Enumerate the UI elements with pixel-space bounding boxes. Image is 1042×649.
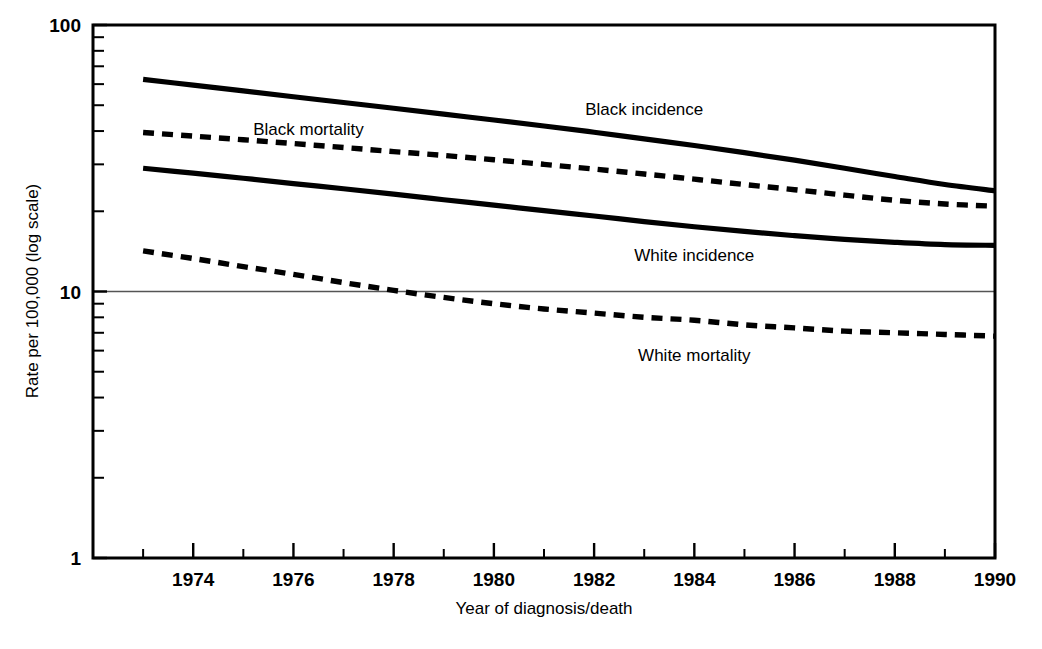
series-label-black-incidence: Black incidence (585, 100, 703, 119)
x-tick-label-1982: 1982 (573, 569, 615, 590)
x-tick-label-1984: 1984 (673, 569, 716, 590)
y-tick-label-10: 10 (60, 282, 81, 303)
chart-figure: 110100 197419761978198019821984198619881… (0, 0, 1042, 649)
x-tick-label-1976: 1976 (272, 569, 314, 590)
chart-background (0, 0, 1042, 649)
x-tick-label-1990: 1990 (974, 569, 1016, 590)
x-tick-label-1980: 1980 (473, 569, 515, 590)
y-tick-label-1: 1 (70, 548, 81, 569)
x-axis-tick-labels: 197419761978198019821984198619881990 (172, 569, 1016, 590)
x-tick-label-1978: 1978 (373, 569, 415, 590)
line-chart: 110100 197419761978198019821984198619881… (0, 0, 1042, 649)
x-tick-label-1988: 1988 (874, 569, 916, 590)
y-tick-label-100: 100 (49, 15, 81, 36)
y-axis-title: Rate per 100,000 (log scale) (23, 184, 42, 399)
series-label-black-mortality: Black mortality (253, 120, 364, 139)
series-label-white-mortality: White mortality (638, 346, 751, 365)
x-axis-title: Year of diagnosis/death (455, 599, 632, 618)
x-tick-label-1986: 1986 (773, 569, 815, 590)
x-tick-label-1974: 1974 (172, 569, 215, 590)
series-label-white-incidence: White incidence (634, 246, 754, 265)
